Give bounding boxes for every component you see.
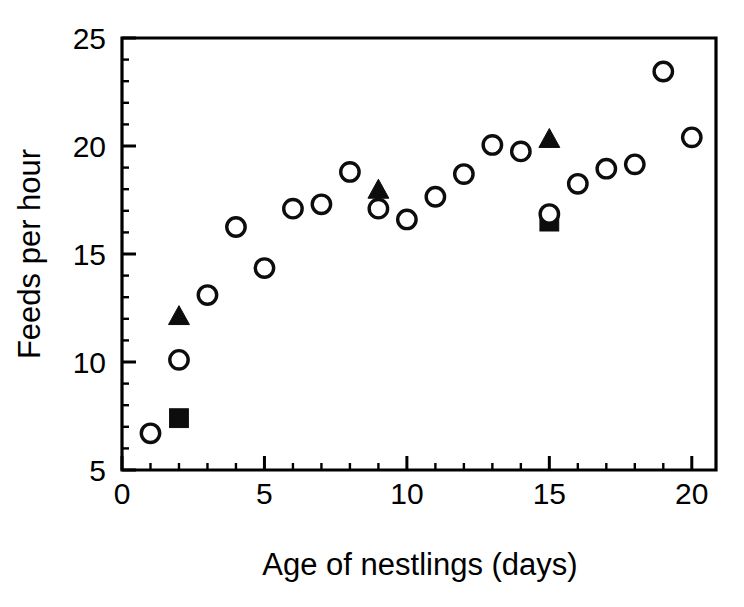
plot-canvas: 05101520 510152025 Age of nestlings (day… (0, 0, 744, 607)
data-point-circle (341, 163, 359, 181)
plot-background (0, 0, 744, 607)
x-tick-label: 10 (390, 477, 423, 510)
data-point-circle (170, 351, 188, 369)
data-point-circle (626, 155, 644, 173)
data-point-circle (198, 286, 216, 304)
y-tick-label: 15 (73, 238, 106, 271)
y-axis-title: Feeds per hour (12, 149, 47, 359)
data-point-circle (597, 159, 615, 177)
data-point-circle (654, 62, 672, 80)
data-point-circle (683, 128, 701, 146)
data-point-circle (540, 205, 558, 223)
x-tick-label: 5 (256, 477, 273, 510)
data-point-circle (398, 210, 416, 228)
data-point-circle (141, 424, 159, 442)
data-point-circle (227, 218, 245, 236)
data-point-circle (369, 199, 387, 217)
data-point-circle (255, 259, 273, 277)
data-point-circle (284, 199, 302, 217)
y-tick-label: 5 (89, 454, 106, 487)
y-tick-label: 20 (73, 130, 106, 163)
data-point-circle (512, 142, 530, 160)
x-axis-title: Age of nestlings (days) (262, 547, 577, 582)
y-tick-label: 10 (73, 346, 106, 379)
scatter-plot-figure: 05101520 510152025 Age of nestlings (day… (0, 0, 744, 607)
data-point-circle (426, 188, 444, 206)
y-tick-label: 25 (73, 22, 106, 55)
x-tick-label: 20 (675, 477, 708, 510)
data-point-square (170, 409, 189, 428)
x-tick-label: 0 (114, 477, 131, 510)
data-point-circle (569, 175, 587, 193)
x-tick-label: 15 (533, 477, 566, 510)
data-point-circle (312, 195, 330, 213)
data-point-circle (483, 136, 501, 154)
data-point-circle (455, 165, 473, 183)
